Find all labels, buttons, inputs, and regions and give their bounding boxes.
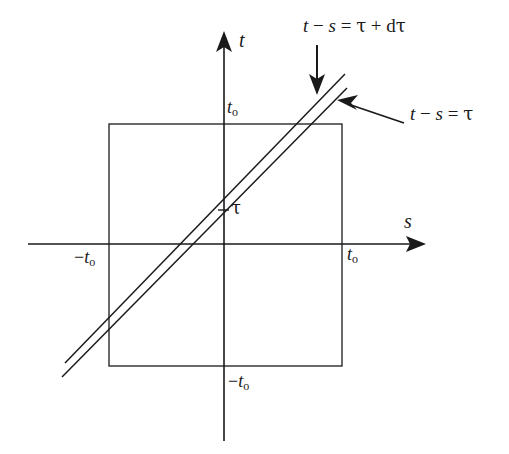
upper-line-equation-label: t − s = τ + dτ xyxy=(303,16,406,35)
upper-label-callout-arrow xyxy=(309,45,325,95)
figure-canvas: t − s = τ + dτ t − s = τ t s to −to to −… xyxy=(0,0,509,454)
t-axis-negative-tick-label: −to xyxy=(228,372,249,392)
integration-square xyxy=(109,124,342,366)
s-axis-negative-tick-label: −to xyxy=(74,248,95,268)
lower-label-callout-arrow xyxy=(337,95,404,123)
lower-line-equation-label: t − s = τ xyxy=(410,104,473,123)
lower-diagonal-line xyxy=(62,88,347,377)
upper-diagonal-line xyxy=(65,74,345,363)
t-axis-name-label: t xyxy=(239,30,245,50)
tau-intercept-label: τ xyxy=(231,199,241,217)
t-axis-positive-tick-label: to xyxy=(227,98,238,118)
diagram-svg xyxy=(0,0,509,454)
s-axis-positive-tick-label: to xyxy=(347,245,358,265)
s-axis-name-label: s xyxy=(404,211,412,231)
